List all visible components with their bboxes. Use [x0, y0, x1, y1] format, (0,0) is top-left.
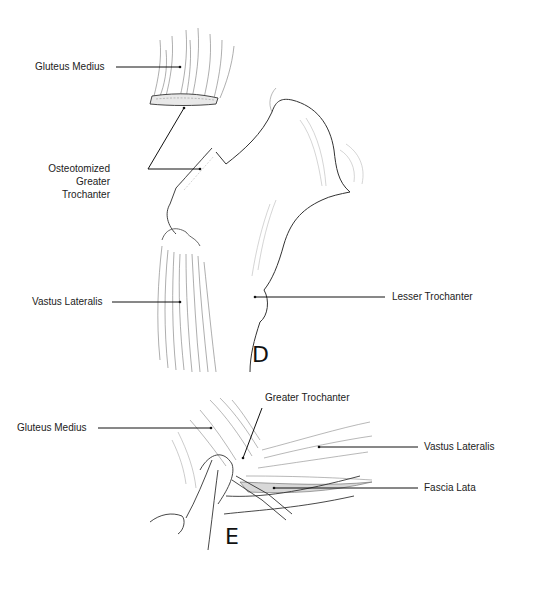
label-osteotomized: Osteotomized [42, 163, 110, 175]
label-vastus-lateralis-d: Vastus Lateralis [32, 296, 102, 308]
gluteus-medius-fragment [154, 28, 234, 98]
label-lesser-trochanter: Lesser Trochanter [392, 291, 473, 303]
femur-proximal [167, 88, 350, 372]
label-trochanter: Trochanter [42, 189, 110, 201]
femur-shading [252, 118, 363, 276]
label-greater: Greater [42, 176, 110, 188]
panel-letter-d: D [252, 342, 269, 367]
surgical-exposure [150, 398, 372, 550]
label-fascia-lata: Fascia Lata [424, 482, 476, 494]
label-gluteus-medius-d: Gluteus Medius [35, 61, 104, 73]
vastus-lateralis-fibers [158, 229, 216, 372]
label-gluteus-medius-e: Gluteus Medius [17, 422, 86, 434]
panel-letter-e: E [225, 524, 239, 549]
label-greater-trochanter-e: Greater Trochanter [265, 392, 349, 404]
label-vastus-lateralis-e: Vastus Lateralis [424, 441, 494, 453]
greater-trochanter-fragment [150, 94, 218, 106]
